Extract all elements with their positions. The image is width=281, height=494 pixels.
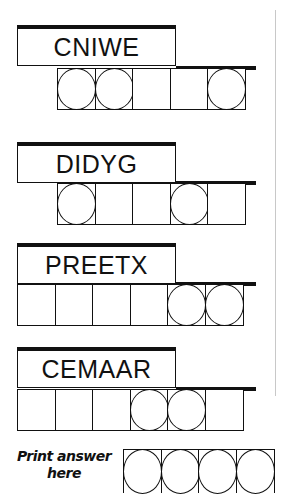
scrambled-word: CEMAAR (42, 357, 152, 382)
scrambled-word-box: DIDYG (17, 142, 176, 183)
letter-cell[interactable] (170, 68, 209, 110)
letter-cell[interactable] (130, 284, 169, 326)
letter-cell-circled[interactable] (205, 284, 244, 326)
answer-cell-row (57, 68, 246, 110)
letter-cell[interactable] (92, 284, 131, 326)
letter-cell[interactable] (17, 284, 56, 326)
letter-cell-circled[interactable] (167, 284, 206, 326)
final-answer-cell[interactable] (198, 449, 237, 493)
scrambled-word-box: CNIWE (17, 25, 176, 66)
final-answer-cell[interactable] (161, 449, 200, 493)
answer-cell-row (57, 183, 246, 225)
scrambled-word: PREETX (45, 253, 148, 278)
letter-cell[interactable] (132, 68, 171, 110)
letter-cell[interactable] (55, 389, 94, 431)
letter-cell[interactable] (207, 183, 246, 225)
letter-cell-circled[interactable] (57, 183, 96, 225)
letter-cell-circled[interactable] (95, 68, 134, 110)
letter-cell[interactable] (132, 183, 171, 225)
answer-cell-row (17, 389, 244, 431)
letter-cell[interactable] (95, 183, 134, 225)
letter-cell-circled[interactable] (57, 68, 96, 110)
final-answer-cell[interactable] (123, 449, 162, 493)
letter-cell[interactable] (92, 389, 131, 431)
letter-cell-circled[interactable] (207, 68, 246, 110)
letter-cell[interactable] (17, 389, 56, 431)
scrambled-word: CNIWE (54, 35, 140, 60)
final-answer-cell[interactable] (236, 449, 275, 493)
letter-cell[interactable] (55, 284, 94, 326)
letter-cell-circled[interactable] (167, 389, 206, 431)
scrambled-word: DIDYG (56, 152, 138, 177)
final-answer-cells (123, 449, 275, 493)
letter-cell-circled[interactable] (130, 389, 169, 431)
answer-label-line2: here (14, 465, 114, 482)
answer-label-line1: Print answer (14, 448, 114, 465)
scrambled-word-box: PREETX (17, 243, 176, 284)
letter-cell[interactable] (205, 389, 244, 431)
scrambled-word-box: CEMAAR (17, 347, 176, 388)
page-divider-line (275, 10, 276, 396)
answer-cell-row (17, 284, 244, 326)
print-answer-label: Print answer here (14, 448, 114, 482)
letter-cell-circled[interactable] (170, 183, 209, 225)
